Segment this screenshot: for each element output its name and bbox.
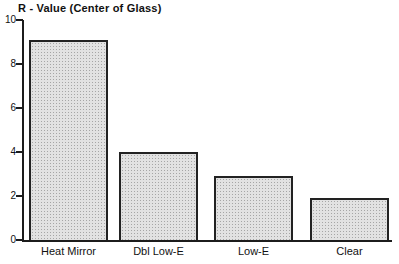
bar-low-e	[214, 176, 293, 240]
x-category-label-low-e: Low-E	[238, 246, 269, 257]
plot-area	[22, 20, 392, 242]
y-tick-mark-10	[16, 19, 23, 21]
y-tick-mark-8	[16, 63, 23, 65]
bar-chart: R - Value (Center of Glass) 0246810 Heat…	[0, 0, 399, 264]
y-tick-mark-2	[16, 195, 23, 197]
y-tick-mark-0	[16, 239, 23, 241]
y-tick-label-0: 0	[0, 235, 16, 245]
y-tick-label-6: 6	[0, 103, 16, 113]
x-category-label-dbl-low-e: Dbl Low-E	[133, 246, 184, 257]
x-category-label-clear: Clear	[336, 246, 362, 257]
y-tick-label-2: 2	[0, 191, 16, 201]
bar-heat-mirror	[29, 40, 108, 240]
y-tick-mark-6	[16, 107, 23, 109]
bar-dbl-low-e	[119, 152, 198, 240]
y-tick-mark-4	[16, 151, 23, 153]
bar-clear	[310, 198, 389, 240]
y-tick-label-10: 10	[0, 15, 16, 25]
y-tick-label-4: 4	[0, 147, 16, 157]
chart-title: R - Value (Center of Glass)	[18, 2, 162, 14]
x-category-label-heat-mirror: Heat Mirror	[41, 246, 96, 257]
y-tick-label-8: 8	[0, 59, 16, 69]
